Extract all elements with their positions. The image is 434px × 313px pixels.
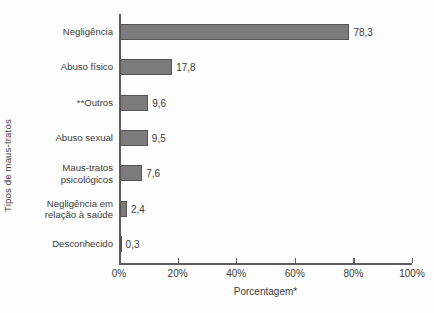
- category-label: Abuso físico: [1, 61, 113, 72]
- x-axis-tick: [236, 258, 237, 263]
- bar-value-label: 78,3: [353, 26, 372, 37]
- category-label: **Outros: [1, 97, 113, 108]
- bar-value-label: 17,8: [176, 62, 195, 73]
- category-label: Maus-tratos psicológicos: [1, 162, 113, 185]
- category-label: Negligência: [1, 26, 113, 37]
- bar-row: Abuso sexual9,5: [119, 120, 412, 155]
- bar-row: Maus-tratos psicológicos7,6: [119, 156, 412, 191]
- bar-row: Desconhecido0,3: [119, 227, 412, 262]
- x-axis-tick: [353, 258, 354, 263]
- bar: [120, 236, 122, 252]
- x-axis-tick-label: 40%: [226, 268, 246, 279]
- x-axis-tick-label: 0%: [112, 268, 126, 279]
- bar: [120, 201, 127, 217]
- category-label: Negligência em relação à saúde: [1, 197, 113, 220]
- bar: [120, 165, 142, 181]
- bar-value-label: 9,6: [152, 97, 166, 108]
- bar: [120, 24, 349, 40]
- x-axis-tick: [178, 258, 179, 263]
- bar-value-label: 7,6: [146, 168, 160, 179]
- x-axis-tick: [119, 258, 120, 263]
- bar-row: **Outros9,6: [119, 85, 412, 120]
- x-axis-tick: [412, 258, 413, 263]
- bar-chart: Tipos de maus-tratos Negligência78,3Abus…: [0, 0, 434, 313]
- bar-value-label: 2,4: [131, 203, 145, 214]
- bar: [120, 59, 172, 75]
- bar-value-label: 0,3: [126, 239, 140, 250]
- bar-row: Abuso físico17,8: [119, 49, 412, 84]
- category-label: Desconhecido: [1, 239, 113, 250]
- bar: [120, 95, 148, 111]
- plot-area: Negligência78,3Abuso físico17,8**Outros9…: [119, 14, 412, 262]
- x-axis-tick-label: 20%: [168, 268, 188, 279]
- category-label: Abuso sexual: [1, 132, 113, 143]
- bar: [120, 130, 148, 146]
- x-axis-line: [119, 263, 412, 265]
- x-axis-tick-label: 100%: [399, 268, 425, 279]
- bar-row: Negligência78,3: [119, 14, 412, 49]
- x-axis-tick: [295, 258, 296, 263]
- x-axis-tick-label: 80%: [343, 268, 363, 279]
- x-axis-tick-label: 60%: [285, 268, 305, 279]
- bar-row: Negligência em relação à saúde2,4: [119, 191, 412, 226]
- x-axis-title: Porcentagem*: [119, 286, 412, 297]
- bar-value-label: 9,5: [152, 132, 166, 143]
